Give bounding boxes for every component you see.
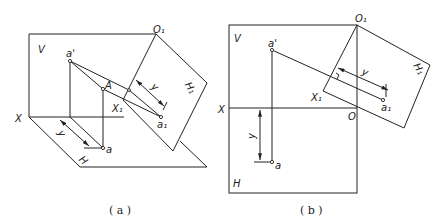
line-x1-a1 <box>334 78 383 100</box>
h-plane-a <box>29 117 207 167</box>
label-X1-b: X₁ <box>310 92 322 103</box>
caption-a: ( a ) <box>109 204 131 217</box>
label-O-b: O <box>348 111 356 122</box>
label-H-a: H <box>77 154 90 167</box>
figure-a: V a' A X₁ O₁ H₁ y X y a a₁ H ( a ) <box>14 24 207 217</box>
label-y-upper-b: y <box>359 65 371 78</box>
point-x1-intersect <box>128 89 131 92</box>
h1-plane-a <box>123 34 207 151</box>
label-y-left-b: y <box>246 132 257 140</box>
label-X1-a: X₁ <box>111 103 123 114</box>
label-V-a: V <box>38 44 46 55</box>
label-X-b: X <box>217 104 226 115</box>
right-angle-mark-b <box>336 73 339 79</box>
v-plane-a <box>29 34 156 117</box>
projection-diagram: V a' A X₁ O₁ H₁ y X y a a₁ H ( a ) <box>0 0 444 224</box>
caption-b: ( b ) <box>300 204 323 217</box>
label-a-a: a <box>106 144 112 155</box>
figure-b: V a' O₁ H₁ y X₁ a₁ X O y a H ( b ) <box>217 13 430 217</box>
label-A-a: A <box>104 80 112 91</box>
label-O1-b: O₁ <box>355 13 367 24</box>
label-a-prime-a: a' <box>66 48 75 59</box>
label-O1-a: O₁ <box>153 24 165 35</box>
label-a1-a: a₁ <box>157 119 167 130</box>
line-a-prime-to-x1 <box>272 50 334 78</box>
label-H1-b: H₁ <box>411 61 426 76</box>
label-V-b: V <box>234 33 242 44</box>
point-a-prime <box>68 59 71 62</box>
point-a <box>101 146 104 149</box>
label-a1-b: a₁ <box>381 102 391 113</box>
h1-plane-b <box>323 25 430 128</box>
label-H-b: H <box>233 178 241 189</box>
label-X-a: X <box>14 113 23 124</box>
point-a-b <box>270 160 273 163</box>
label-a-prime-b: a' <box>268 38 277 49</box>
label-y-lower-a: y <box>55 127 69 139</box>
vh-frame-b <box>229 25 357 193</box>
label-y-upper-a: y <box>148 80 161 94</box>
label-H1-a: H₁ <box>183 80 198 95</box>
label-a-b: a <box>275 160 281 171</box>
